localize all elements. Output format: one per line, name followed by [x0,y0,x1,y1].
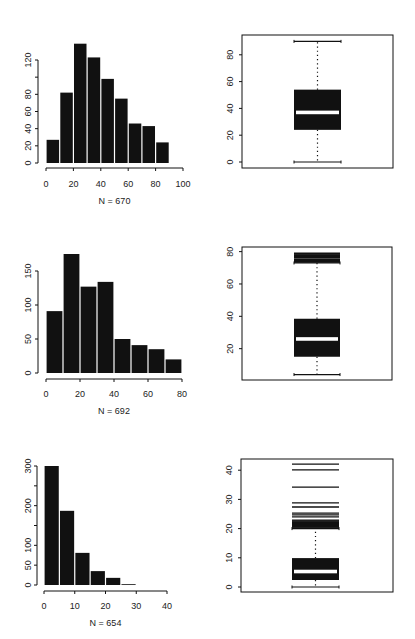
histogram-bar [47,311,63,373]
histogram-bar [64,254,80,373]
y-tick-label: 60 [225,279,235,289]
histogram-bar [106,578,120,585]
histogram-bar [115,99,128,163]
y-tick-label: 40 [225,311,235,321]
sample-size-label: N = 670 [99,196,131,206]
y-tick-label: 100 [23,538,33,553]
x-tick-label: 60 [123,179,133,189]
x-tick-label: 20 [68,179,78,189]
y-tick-label: 80 [23,89,33,99]
boxplot-panel-3: 010203040 [224,459,393,592]
x-tick-label: 20 [75,389,85,399]
x-tick-label: 40 [162,601,172,611]
histogram-bar [115,339,131,373]
y-tick-label: 30 [224,494,234,504]
y-tick-label: 20 [224,524,234,534]
histogram-panel-2: 050100150020406080N = 692 [23,254,187,416]
y-tick-label: 0 [23,582,33,587]
histogram-bar [75,553,89,585]
x-tick-label: 80 [177,389,187,399]
x-tick-label: 0 [41,601,46,611]
y-tick-label: 20 [23,141,33,151]
histogram-panel-3: 050100200300010203040N = 654 [23,458,172,628]
y-tick-label: 20 [225,344,235,354]
histogram-bar [45,466,59,585]
x-tick-label: 20 [100,601,110,611]
y-tick-label: 0 [23,370,33,375]
y-tick-label: 0 [23,160,33,165]
histogram-bar [98,282,114,373]
y-tick-label: 40 [224,465,234,475]
y-tick-label: 0 [224,584,234,589]
histogram-bar [60,93,73,163]
histogram-bar [132,345,148,373]
histogram-bar [143,126,156,163]
y-tick-label: 200 [23,498,33,513]
x-tick-label: 80 [151,179,161,189]
y-tick-label: 150 [23,263,33,278]
figure-canvas: 020406080120020406080100N = 670 02040608… [0,0,415,639]
histogram-bar [129,124,142,163]
y-tick-label: 20 [225,130,235,140]
histogram-bar [101,79,114,163]
y-tick-label: 40 [225,103,235,113]
histogram-bar [166,359,182,373]
y-tick-label: 40 [23,124,33,134]
boxplot-panel-2: 20406080 [225,247,392,380]
histogram-bar [60,511,74,585]
y-tick-label: 60 [23,106,33,116]
histogram-bar [81,287,97,373]
interquartile-box [294,90,341,130]
histogram-panel-1: 020406080120020406080100N = 670 [23,44,190,206]
histogram-bar [88,57,101,163]
y-tick-label: 120 [23,52,33,67]
histogram-bar [91,571,105,585]
x-tick-label: 40 [96,179,106,189]
sample-size-label: N = 692 [98,406,130,416]
y-tick-label: 300 [23,458,33,473]
median-line [296,337,338,341]
y-tick-label: 100 [23,297,33,312]
x-tick-label: 0 [43,389,48,399]
x-tick-label: 40 [109,389,119,399]
histogram-bar [74,44,87,163]
y-tick-label: 50 [23,560,33,570]
histogram-bar [121,584,135,585]
histogram-bar [156,142,169,163]
x-tick-label: 10 [70,601,80,611]
y-tick-label: 80 [225,247,235,257]
histogram-bar [149,349,165,373]
x-tick-label: 30 [131,601,141,611]
y-tick-label: 50 [23,334,33,344]
y-tick-label: 10 [224,553,234,563]
median-line [296,111,339,115]
y-tick-label: 80 [225,50,235,60]
interquartile-box [292,558,339,580]
sample-size-label: N = 654 [90,618,122,628]
x-tick-label: 0 [43,179,48,189]
x-tick-label: 60 [143,389,153,399]
x-tick-label: 100 [175,179,190,189]
median-line [294,570,337,574]
y-tick-label: 0 [225,159,235,164]
histogram-bar [47,140,60,163]
boxplot-panel-1: 020406080 [225,35,393,168]
y-tick-label: 60 [225,77,235,87]
